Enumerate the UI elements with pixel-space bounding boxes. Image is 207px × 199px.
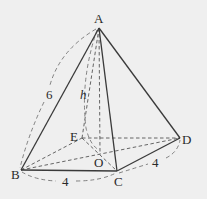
- height-label-h: h: [80, 87, 87, 102]
- vertex-label-O: O: [94, 155, 103, 170]
- length-label-BC: 4: [62, 174, 69, 189]
- pyramid-diagram: A B C D E O 6 h 4 4: [0, 0, 207, 199]
- pyramid-figure: A B C D E O 6 h 4 4: [0, 0, 207, 199]
- edge-AO: [99, 28, 100, 152]
- length-label-AB: 6: [46, 87, 53, 102]
- edge-BC: [21, 170, 117, 171]
- edge-AB: [21, 28, 99, 170]
- vertex-label-D: D: [182, 132, 191, 147]
- vertex-label-A: A: [94, 11, 104, 26]
- vertex-label-C: C: [114, 174, 123, 189]
- edge-BC-dimension-arc: [22, 172, 116, 181]
- vertex-label-B: B: [11, 167, 20, 182]
- edge-CD-dimension-arc: [119, 140, 180, 173]
- height-dimension-arc: [84, 30, 99, 150]
- vertex-label-E: E: [70, 129, 78, 144]
- length-label-CD: 4: [152, 155, 159, 170]
- edge-CD: [117, 138, 180, 171]
